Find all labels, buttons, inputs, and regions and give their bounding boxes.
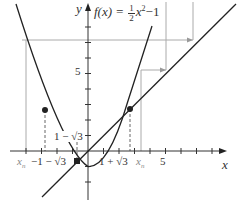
point-left-root-marker — [42, 107, 48, 113]
left-fixed-point-label: 1 − √3 — [54, 131, 83, 142]
guide-arrowheads — [160, 38, 193, 73]
axes — [10, 8, 222, 200]
y-tick-label-5: 5 — [75, 66, 81, 77]
negative-root-label: −1 − √3 — [31, 156, 66, 167]
fixed-point-iteration-diagram — [0, 0, 239, 209]
point-left-fixed-marker — [74, 158, 80, 164]
y-axis-arrow-icon — [85, 3, 91, 11]
arrow-icon — [187, 38, 193, 43]
y-axis-label: y — [76, 2, 82, 15]
arrow-icon — [160, 68, 166, 73]
right-fixed-point-label: 1 + √3 — [99, 156, 128, 167]
function-label: f(x) = 1 2 x2−1 — [94, 4, 159, 23]
parabola-curve — [16, 4, 152, 167]
x-axis-arrow-icon — [219, 148, 227, 154]
xn-left-label: xn — [17, 156, 25, 170]
xn-right-label: xn — [136, 156, 144, 170]
fraction-half: 1 2 — [128, 4, 135, 23]
cobweb-guides — [22, 2, 193, 151]
x-tick-label-5: 5 — [160, 156, 166, 167]
point-right-fixed-marker — [127, 106, 133, 112]
function-lhs: f(x) = — [94, 4, 124, 19]
x-axis-label: x — [222, 158, 228, 171]
